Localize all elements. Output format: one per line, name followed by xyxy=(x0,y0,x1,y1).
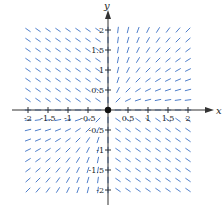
slope-segment xyxy=(127,27,129,33)
slope-segment xyxy=(87,157,89,163)
slope-segment xyxy=(85,28,90,32)
slope-segment xyxy=(77,187,79,193)
slope-segment xyxy=(155,99,161,100)
slope-segment xyxy=(117,67,119,73)
slope-segment xyxy=(75,68,80,72)
slope-segment xyxy=(87,147,90,153)
slope-segment xyxy=(165,99,171,100)
slope-segment xyxy=(25,139,31,141)
slope-segment xyxy=(85,98,90,102)
slope-segment xyxy=(45,48,50,52)
axes xyxy=(12,10,214,205)
slope-segment xyxy=(75,78,80,82)
slope-segment xyxy=(67,187,70,193)
slope-segment xyxy=(166,27,170,32)
slope-segment xyxy=(117,77,119,83)
slope-segment xyxy=(165,178,170,182)
slope-segment xyxy=(65,78,70,82)
slope-segment xyxy=(97,157,98,163)
slope-segment xyxy=(136,67,140,72)
slope-segment xyxy=(145,99,151,101)
y-tick-label: 2 xyxy=(99,26,104,35)
slope-segment xyxy=(66,177,69,183)
y-axis-arrow-icon xyxy=(105,10,111,19)
slope-segment xyxy=(25,58,30,62)
x-tick-label: 1 xyxy=(145,114,150,123)
slope-segment xyxy=(45,38,50,42)
slope-segment xyxy=(127,37,129,43)
slope-segment xyxy=(55,68,60,72)
slope-segment xyxy=(85,68,90,72)
slope-segment xyxy=(35,78,40,82)
slope-segment xyxy=(136,78,141,83)
slope-segment xyxy=(185,128,190,132)
slope-segment xyxy=(66,167,70,172)
slope-segment xyxy=(55,88,60,92)
y-tick-label: 1.5 xyxy=(91,46,104,55)
slope-segment xyxy=(135,168,140,172)
slope-segment xyxy=(145,128,150,132)
slope-segment xyxy=(35,28,40,32)
slope-segment xyxy=(175,158,180,162)
slope-segment xyxy=(185,158,190,162)
slope-segment xyxy=(137,27,139,33)
slope-segment xyxy=(85,38,90,42)
slope-segment xyxy=(175,168,180,172)
slope-segment xyxy=(117,57,118,63)
slope-segment xyxy=(185,48,190,52)
slope-segment xyxy=(145,158,150,162)
slope-segment xyxy=(45,148,50,152)
slope-segment xyxy=(175,188,180,192)
slope-segment xyxy=(96,118,101,123)
direction-field-chart: -2-1.5-1-0.50.511.5221.510.5-0.5-1-1.5-2… xyxy=(0,0,222,213)
slope-segment xyxy=(117,47,118,53)
slope-segment xyxy=(85,58,90,62)
slope-segment xyxy=(46,158,51,162)
slope-segment xyxy=(35,38,40,42)
slope-segment xyxy=(127,47,129,53)
slope-segment xyxy=(156,68,161,72)
slope-segment xyxy=(35,158,40,162)
slope-segment xyxy=(175,178,180,182)
slope-segment xyxy=(155,168,160,172)
slope-segment xyxy=(56,158,61,163)
slope-segment xyxy=(55,98,60,102)
slope-segment xyxy=(115,138,120,142)
slope-segment xyxy=(185,69,191,72)
slope-segment xyxy=(185,100,191,101)
slope-segment xyxy=(136,57,139,62)
slope-segment xyxy=(115,128,120,132)
slope-segment xyxy=(85,88,90,92)
slope-segment xyxy=(45,88,50,92)
slope-segment xyxy=(185,178,190,182)
slope-segment xyxy=(125,178,130,182)
slope-segment xyxy=(55,38,60,42)
slope-segment xyxy=(55,119,61,120)
slope-segment xyxy=(146,47,150,52)
x-axis-label: x xyxy=(216,105,222,116)
slope-segment xyxy=(75,88,80,92)
slope-segment xyxy=(95,58,100,62)
slope-segment xyxy=(65,98,70,102)
slope-segment xyxy=(155,138,160,142)
slope-segment xyxy=(115,178,120,182)
slope-segment xyxy=(75,58,80,62)
slope-segment xyxy=(26,178,31,182)
slope-segment xyxy=(165,79,171,82)
slope-segment xyxy=(86,137,90,142)
slope-segment xyxy=(35,129,41,131)
x-axis-arrow-icon xyxy=(205,107,214,113)
slope-segment xyxy=(77,167,80,173)
slope-segment xyxy=(65,138,70,142)
slope-segment xyxy=(36,188,40,193)
slope-segment xyxy=(165,128,170,132)
slope-segment xyxy=(66,148,71,153)
slope-segment xyxy=(175,128,180,132)
slope-segment xyxy=(118,27,119,33)
slope-segment xyxy=(76,157,79,162)
slope-segment xyxy=(185,58,190,61)
y-tick-label: -1 xyxy=(96,146,104,155)
slope-segment xyxy=(115,168,120,172)
slope-segment xyxy=(127,57,129,63)
slope-segment xyxy=(166,38,170,43)
